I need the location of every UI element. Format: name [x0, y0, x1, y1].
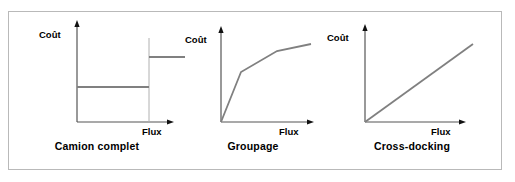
- x-axis-label: Flux: [279, 126, 299, 137]
- plot-area-camion-complet: Coût Flux: [9, 12, 185, 140]
- chart-camion-complet: Coût Flux Camion complet: [9, 12, 185, 169]
- figure-panel: Coût Flux Camion complet Coût Flux Group…: [8, 11, 502, 170]
- x-axis-label: Flux: [431, 126, 451, 137]
- chart-cross-docking: Coût Flux Cross-docking: [321, 12, 503, 169]
- chart-groupage: Coût Flux Groupage: [185, 12, 321, 169]
- y-axis-label: Coût: [327, 32, 349, 43]
- series-groupage-curve: [221, 44, 311, 122]
- y-axis-arrow-icon: [74, 20, 79, 27]
- x-axis-arrow-icon: [459, 120, 466, 125]
- chart-caption: Groupage: [185, 140, 321, 152]
- y-axis-arrow-icon: [362, 24, 367, 31]
- y-axis-label: Coût: [185, 34, 207, 45]
- series-crossdock-line: [365, 44, 473, 122]
- chart-caption: Cross-docking: [321, 140, 503, 152]
- y-axis-label: Coût: [39, 29, 61, 40]
- chart-caption: Camion complet: [9, 140, 185, 152]
- x-axis-arrow-icon: [307, 120, 314, 125]
- y-axis-arrow-icon: [218, 26, 223, 33]
- x-axis-label: Flux: [142, 126, 162, 137]
- x-axis-arrow-icon: [167, 120, 174, 125]
- plot-area-cross-docking: Coût Flux: [321, 12, 503, 140]
- plot-area-groupage: Coût Flux: [185, 12, 321, 140]
